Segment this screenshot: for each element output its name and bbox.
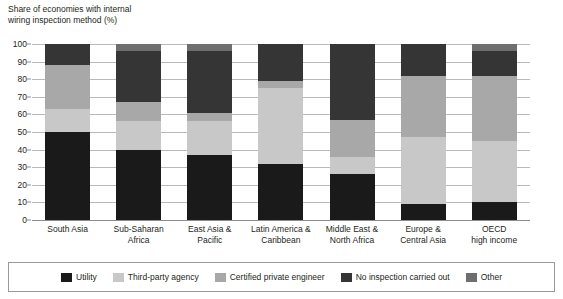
- y-tick-mark-50: [27, 132, 31, 133]
- bar-segment[interactable]: [45, 132, 90, 220]
- y-tick-mark-100: [27, 44, 31, 45]
- bar-segment[interactable]: [258, 164, 303, 220]
- bar-column: [317, 44, 388, 220]
- legend-item[interactable]: Third-party agency: [113, 272, 199, 282]
- legend-item[interactable]: No inspection carried out: [341, 272, 450, 282]
- legend-swatch-icon: [61, 273, 72, 282]
- stacked-bar[interactable]: [258, 44, 303, 220]
- y-tick-mark-20: [27, 184, 31, 185]
- bar-segment[interactable]: [45, 65, 90, 109]
- bar-segment[interactable]: [472, 51, 517, 76]
- legend-label: No inspection carried out: [356, 272, 450, 282]
- legend-item[interactable]: Utility: [61, 272, 97, 282]
- y-axis-tick-label: 0: [22, 215, 27, 225]
- bar-column: [388, 44, 459, 220]
- legend-label: Third-party agency: [128, 272, 199, 282]
- stacked-bar[interactable]: [45, 44, 90, 220]
- stacked-bar[interactable]: [330, 44, 375, 220]
- plot-area: 0102030405060708090100: [32, 44, 530, 220]
- bar-column: [245, 44, 316, 220]
- y-axis-tick-label: 60: [18, 109, 27, 119]
- legend-label: Certified private engineer: [230, 272, 325, 282]
- y-tick-mark-80: [27, 79, 31, 80]
- y-axis-tick-label: 50: [18, 127, 27, 137]
- y-axis-tick-label: 90: [18, 57, 27, 67]
- bar-segment[interactable]: [116, 102, 161, 121]
- y-axis-tick-label: 70: [18, 92, 27, 102]
- x-axis-labels: South AsiaSub-Saharan AfricaEast Asia & …: [32, 224, 530, 246]
- bar-segment[interactable]: [116, 51, 161, 102]
- y-tick-mark-70: [27, 96, 31, 97]
- bar-segment[interactable]: [45, 44, 90, 65]
- bar-segment[interactable]: [45, 109, 90, 132]
- bar-segment[interactable]: [116, 121, 161, 149]
- stacked-bar[interactable]: [116, 44, 161, 220]
- y-tick-mark-40: [27, 149, 31, 150]
- y-axis-tick-label: 20: [18, 180, 27, 190]
- legend-item[interactable]: Certified private engineer: [215, 272, 325, 282]
- bar-segment[interactable]: [116, 44, 161, 51]
- bar-segment[interactable]: [258, 88, 303, 164]
- gridline-0: [32, 220, 530, 221]
- bar-segment[interactable]: [472, 141, 517, 203]
- y-axis-tick-label: 10: [18, 197, 27, 207]
- bar-segment[interactable]: [187, 51, 232, 113]
- bar-segment[interactable]: [330, 174, 375, 220]
- x-axis-category-label: OECD high income: [459, 224, 530, 246]
- legend-swatch-icon: [341, 273, 352, 282]
- chart-title: Share of economies with internal wiring …: [8, 4, 131, 26]
- x-axis-category-label: South Asia: [32, 224, 103, 246]
- legend-label: Utility: [76, 272, 97, 282]
- x-axis-category-label: East Asia & Pacific: [174, 224, 245, 246]
- bar-segment[interactable]: [258, 44, 303, 81]
- x-axis-category-label: Latin America & Caribbean: [245, 224, 316, 246]
- y-tick-mark-30: [27, 167, 31, 168]
- bar-segment[interactable]: [187, 113, 232, 122]
- y-tick-mark-90: [27, 61, 31, 62]
- y-tick-mark-0: [27, 220, 31, 221]
- bar-segment[interactable]: [187, 155, 232, 220]
- y-axis-tick-label: 30: [18, 162, 27, 172]
- legend-item[interactable]: Other: [466, 272, 502, 282]
- x-axis-category-label: Middle East & North Africa: [316, 224, 387, 246]
- legend-label: Other: [481, 272, 502, 282]
- bar-segment[interactable]: [187, 44, 232, 51]
- bar-segment[interactable]: [116, 150, 161, 220]
- bar-column: [103, 44, 174, 220]
- bar-segment[interactable]: [330, 44, 375, 120]
- bar-segment[interactable]: [401, 204, 446, 220]
- bar-column: [459, 44, 530, 220]
- bar-segment[interactable]: [472, 76, 517, 141]
- legend-swatch-icon: [113, 273, 124, 282]
- stacked-bar[interactable]: [472, 44, 517, 220]
- y-tick-mark-10: [27, 202, 31, 203]
- bar-series-group: [32, 44, 530, 220]
- y-axis-tick-label: 80: [18, 74, 27, 84]
- legend-swatch-icon: [215, 273, 226, 282]
- y-axis-tick-label: 100: [13, 39, 27, 49]
- bar-segment[interactable]: [330, 157, 375, 175]
- y-axis-tick-label: 40: [18, 145, 27, 155]
- bar-segment[interactable]: [472, 44, 517, 51]
- stacked-bar[interactable]: [187, 44, 232, 220]
- bar-segment[interactable]: [472, 202, 517, 220]
- bar-column: [32, 44, 103, 220]
- stacked-bar[interactable]: [401, 44, 446, 220]
- chart-legend: UtilityThird-party agencyCertified priva…: [8, 262, 555, 292]
- bar-segment[interactable]: [330, 120, 375, 157]
- bar-column: [174, 44, 245, 220]
- bar-segment[interactable]: [401, 76, 446, 138]
- bar-segment[interactable]: [258, 81, 303, 88]
- chart-container: Share of economies with internal wiring …: [0, 0, 563, 299]
- bar-segment[interactable]: [187, 121, 232, 154]
- y-tick-mark-60: [27, 114, 31, 115]
- legend-swatch-icon: [466, 273, 477, 282]
- x-axis-category-label: Europe & Central Asia: [388, 224, 459, 246]
- bar-segment[interactable]: [401, 137, 446, 204]
- bar-segment[interactable]: [401, 44, 446, 76]
- x-axis-category-label: Sub-Saharan Africa: [103, 224, 174, 246]
